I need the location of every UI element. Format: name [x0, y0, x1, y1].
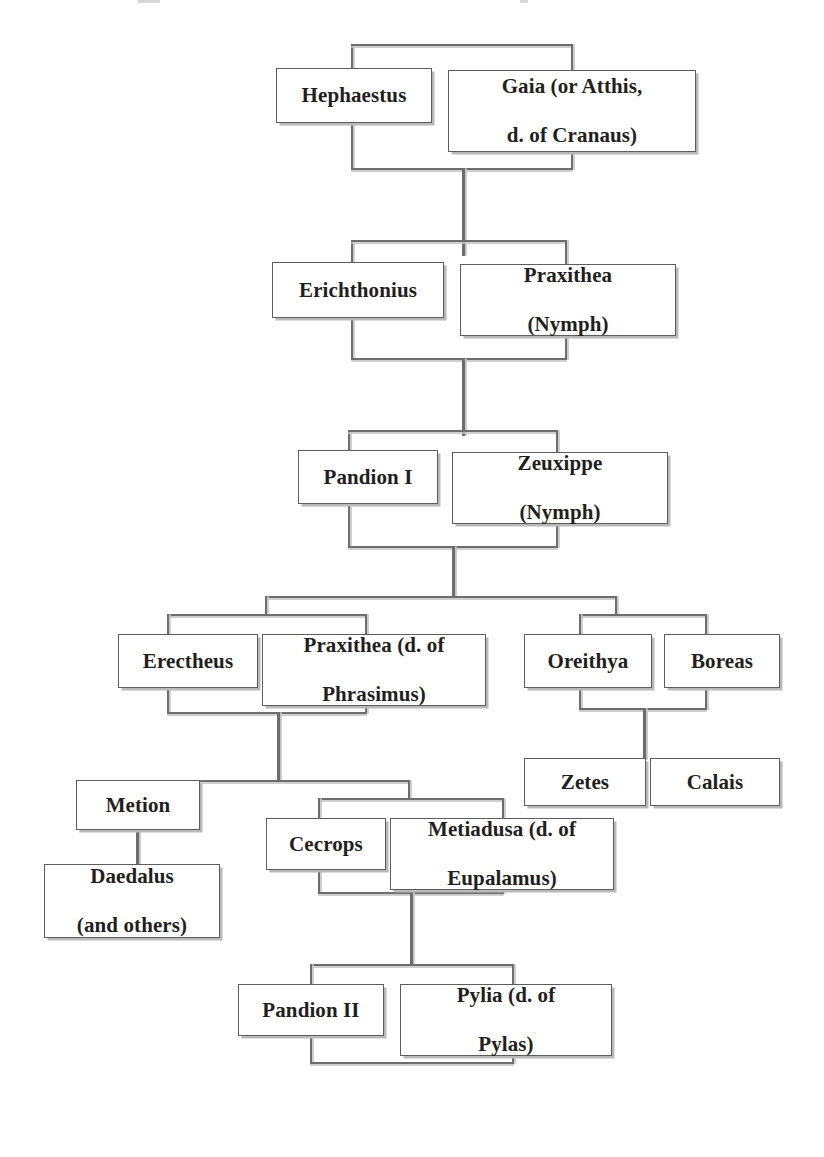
person-label-pandion-ii: Pandion II — [239, 998, 383, 1023]
union-connector — [351, 44, 353, 70]
sibling-connector — [196, 780, 410, 782]
person-node-calais: Calais — [650, 758, 780, 806]
union-connector — [579, 614, 707, 616]
scan-artifact — [520, 0, 528, 3]
union-connector — [351, 318, 353, 360]
union-connector — [167, 688, 169, 714]
union-connector — [310, 964, 312, 986]
person-node-praxithea-nymph: Praxithea (Nymph) — [460, 264, 676, 336]
person-node-daedalus: Daedalus (and others) — [44, 864, 220, 938]
person-label-oreithya: Oreithya — [525, 649, 651, 674]
union-connector — [579, 614, 581, 636]
union-connector — [167, 614, 367, 616]
person-node-pandion-ii: Pandion II — [238, 984, 384, 1036]
descent-connector — [277, 712, 280, 782]
scan-artifact — [138, 0, 160, 3]
sibling-connector — [408, 780, 410, 800]
person-label-hephaestus: Hephaestus — [277, 83, 431, 108]
union-connector — [348, 506, 350, 548]
union-connector — [167, 712, 367, 714]
person-label-pandion-i: Pandion I — [299, 465, 437, 490]
person-label-metiadusa-line1: Metiadusa (d. of — [397, 817, 607, 842]
person-label-erectheus: Erectheus — [119, 649, 257, 674]
person-label-praxithea-nymph-line2: (Nymph) — [467, 312, 669, 337]
person-label-metion: Metion — [77, 793, 199, 818]
person-label-zeuxippe-line1: Zeuxippe — [459, 451, 661, 476]
person-node-hephaestus: Hephaestus — [276, 68, 432, 123]
descent-connector — [462, 358, 465, 436]
union-connector — [318, 798, 320, 820]
person-label-pylia: Pylia (d. of Pylas) — [401, 983, 611, 1057]
person-node-zetes: Zetes — [524, 758, 646, 806]
descent-connector — [136, 828, 139, 866]
person-label-zeuxippe: Zeuxippe (Nymph) — [453, 451, 667, 525]
person-label-pylia-line1: Pylia (d. of — [407, 983, 605, 1008]
person-label-daedalus-line2: (and others) — [51, 913, 213, 938]
union-connector — [351, 240, 567, 242]
descent-connector — [452, 546, 455, 598]
sibling-connector — [265, 596, 617, 598]
union-connector — [705, 688, 707, 710]
person-label-erichthonius: Erichthonius — [273, 278, 443, 303]
union-connector — [318, 870, 320, 894]
person-label-praxithea-phrasimus-line1: Praxithea (d. of — [269, 633, 479, 658]
person-node-gaia: Gaia (or Atthis, d. of Cranaus) — [448, 70, 696, 152]
person-node-erichthonius: Erichthonius — [272, 262, 444, 318]
union-connector — [310, 1036, 312, 1064]
person-node-cecrops: Cecrops — [266, 818, 386, 870]
person-label-zeuxippe-line2: (Nymph) — [459, 500, 661, 525]
person-label-boreas: Boreas — [665, 649, 779, 674]
person-node-zeuxippe: Zeuxippe (Nymph) — [452, 452, 668, 524]
descent-connector — [643, 708, 646, 760]
person-node-metion: Metion — [76, 780, 200, 830]
person-label-cecrops: Cecrops — [267, 832, 385, 857]
sibling-connector — [615, 596, 617, 616]
union-connector — [351, 120, 353, 170]
person-label-pylia-line2: Pylas) — [407, 1032, 605, 1057]
descent-connector — [410, 892, 413, 964]
person-node-praxithea-phrasimus: Praxithea (d. of Phrasimus) — [262, 634, 486, 706]
union-connector — [318, 798, 504, 800]
union-connector — [348, 430, 558, 432]
union-connector — [565, 334, 567, 360]
person-label-calais: Calais — [651, 770, 779, 795]
family-tree-diagram: Hephaestus Gaia (or Atthis, d. of Cranau… — [0, 0, 824, 1157]
person-node-oreithya: Oreithya — [524, 634, 652, 688]
person-label-gaia: Gaia (or Atthis, d. of Cranaus) — [449, 74, 695, 148]
union-connector — [556, 524, 558, 548]
person-label-praxithea-phrasimus: Praxithea (d. of Phrasimus) — [263, 633, 485, 707]
person-label-gaia-line1: Gaia (or Atthis, — [455, 74, 689, 99]
person-label-praxithea-nymph: Praxithea (Nymph) — [461, 263, 675, 337]
union-connector — [310, 964, 514, 966]
person-node-erectheus: Erectheus — [118, 634, 258, 688]
person-node-pandion-i: Pandion I — [298, 450, 438, 504]
union-connector — [705, 614, 707, 636]
sibling-connector — [265, 596, 267, 616]
person-node-pylia: Pylia (d. of Pylas) — [400, 984, 612, 1056]
person-label-metiadusa-line2: Eupalamus) — [397, 866, 607, 891]
union-connector — [571, 150, 573, 170]
person-label-praxithea-nymph-line1: Praxithea — [467, 263, 669, 288]
person-label-daedalus-line1: Daedalus — [51, 864, 213, 889]
person-node-boreas: Boreas — [664, 634, 780, 688]
person-label-praxithea-phrasimus-line2: Phrasimus) — [269, 682, 479, 707]
descent-connector — [462, 168, 465, 256]
person-label-zetes: Zetes — [525, 770, 645, 795]
union-connector — [167, 614, 169, 636]
person-label-metiadusa: Metiadusa (d. of Eupalamus) — [391, 817, 613, 891]
person-node-metiadusa: Metiadusa (d. of Eupalamus) — [390, 818, 614, 890]
union-connector — [351, 358, 567, 360]
union-connector — [571, 44, 573, 72]
person-label-gaia-line2: d. of Cranaus) — [455, 123, 689, 148]
union-connector — [310, 1062, 514, 1064]
union-connector — [579, 688, 581, 710]
person-label-daedalus: Daedalus (and others) — [45, 864, 219, 938]
union-connector — [351, 44, 573, 46]
